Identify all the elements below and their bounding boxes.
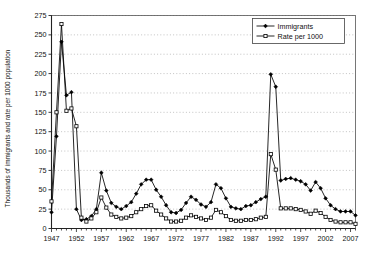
svg-text:125: 125 xyxy=(35,127,47,136)
legend-item-label: Rate per 1000 xyxy=(278,32,324,41)
svg-text:1962: 1962 xyxy=(118,234,134,243)
data-series xyxy=(50,22,358,225)
svg-text:1952: 1952 xyxy=(68,234,84,243)
svg-text:1947: 1947 xyxy=(44,234,60,243)
chart-legend: ImmigrantsRate per 1000 xyxy=(253,19,345,44)
svg-text:175: 175 xyxy=(35,89,47,98)
svg-text:1977: 1977 xyxy=(193,234,209,243)
svg-text:1957: 1957 xyxy=(93,234,109,243)
svg-text:100: 100 xyxy=(35,147,47,156)
svg-text:150: 150 xyxy=(35,108,47,117)
svg-text:25: 25 xyxy=(39,205,47,214)
svg-text:1997: 1997 xyxy=(293,234,309,243)
svg-text:50: 50 xyxy=(39,185,47,194)
legend-item-label: Immigrants xyxy=(278,22,314,31)
svg-text:1987: 1987 xyxy=(243,234,259,243)
chart-container: Thousands of immigrants and rate per 100… xyxy=(0,0,370,256)
svg-text:1967: 1967 xyxy=(143,234,159,243)
svg-text:1992: 1992 xyxy=(268,234,284,243)
svg-text:1972: 1972 xyxy=(168,234,184,243)
chart-svg: 0255075100125150175200225250275 19471952… xyxy=(0,0,370,256)
gridlines xyxy=(52,16,356,210)
svg-text:2002: 2002 xyxy=(318,234,334,243)
y-axis-ticks: 0255075100125150175200225250275 xyxy=(35,11,52,233)
svg-text:225: 225 xyxy=(35,50,47,59)
svg-text:2007: 2007 xyxy=(343,234,359,243)
plot-frame xyxy=(52,16,356,229)
svg-text:250: 250 xyxy=(35,30,47,39)
svg-text:200: 200 xyxy=(35,69,47,78)
svg-text:275: 275 xyxy=(35,11,47,20)
svg-text:75: 75 xyxy=(39,166,47,175)
x-axis-ticks: 1947195219571962196719721977198219871992… xyxy=(44,229,359,244)
svg-text:1982: 1982 xyxy=(218,234,234,243)
svg-text:0: 0 xyxy=(43,224,47,233)
